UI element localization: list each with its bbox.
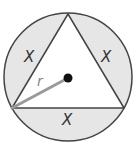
inscribed-triangle-diagram: X X X r (0, 0, 135, 142)
label-segment-bottom: X (61, 111, 73, 129)
label-segment-right: X (100, 48, 112, 66)
label-segment-left: X (23, 48, 35, 66)
center-dot (64, 74, 73, 83)
